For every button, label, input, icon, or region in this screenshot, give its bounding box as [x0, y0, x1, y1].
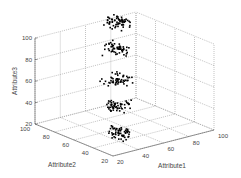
z-tick-label: 100	[22, 35, 33, 41]
data-point	[105, 44, 107, 46]
data-point	[120, 105, 122, 107]
data-point	[112, 40, 114, 42]
data-point	[115, 107, 117, 109]
y-axis-line	[35, 124, 113, 156]
data-point	[109, 21, 111, 23]
data-point	[124, 107, 126, 109]
data-point	[129, 131, 131, 133]
data-point	[114, 43, 116, 45]
y-tick-label: 80	[43, 134, 50, 140]
data-point	[109, 27, 111, 29]
side-wall-grid-line	[136, 34, 214, 66]
data-point	[121, 107, 123, 109]
data-point	[113, 51, 115, 53]
data-point	[118, 46, 120, 48]
data-point	[110, 107, 112, 109]
data-point	[110, 80, 112, 82]
data-point	[113, 105, 115, 107]
data-point	[117, 73, 119, 75]
data-point	[128, 133, 130, 135]
data-point	[108, 102, 110, 104]
data-point	[121, 79, 123, 81]
3d-scatter-plot: 204060801002040608010020406080100 Attrib…	[0, 0, 241, 178]
data-point	[129, 22, 131, 24]
data-point	[112, 19, 114, 21]
data-point	[118, 134, 120, 136]
data-point	[123, 48, 125, 50]
data-point	[111, 137, 113, 139]
data-point	[124, 104, 126, 106]
floor-grid-line	[55, 106, 156, 132]
x-tick-label: 60	[168, 146, 175, 152]
data-point	[119, 21, 121, 23]
data-point	[113, 14, 115, 16]
data-point	[116, 24, 118, 26]
data-point	[116, 110, 118, 112]
data-point	[112, 80, 114, 82]
data-point	[113, 45, 115, 47]
data-point	[105, 81, 107, 83]
axis-lines	[35, 38, 214, 156]
data-point	[120, 80, 122, 82]
data-point	[127, 20, 129, 22]
y-tick-label: 60	[62, 142, 69, 148]
data-point	[125, 139, 127, 141]
data-point	[123, 46, 125, 48]
data-point	[101, 78, 103, 80]
data-point	[125, 20, 127, 22]
data-point	[130, 99, 132, 101]
data-point	[121, 135, 123, 137]
x-tick-label: 20	[117, 159, 124, 165]
data-point	[126, 132, 128, 134]
data-point	[121, 24, 123, 26]
data-point	[126, 50, 128, 52]
data-point	[103, 83, 105, 85]
data-point	[125, 132, 127, 134]
data-point	[118, 48, 120, 50]
data-point	[121, 30, 123, 32]
data-point	[122, 81, 124, 83]
data-point	[131, 77, 133, 79]
x-tick-label: 100	[218, 133, 229, 139]
data-point	[118, 19, 120, 21]
data-point	[112, 128, 114, 130]
data-point	[121, 17, 123, 19]
data-point	[109, 18, 111, 20]
data-point	[112, 133, 114, 135]
data-point	[120, 130, 122, 132]
data-point	[116, 18, 118, 20]
floor-grid-line	[94, 122, 195, 148]
data-point	[108, 108, 110, 110]
data-point	[108, 43, 110, 45]
data-point	[122, 49, 124, 51]
data-point	[112, 78, 114, 80]
data-point	[122, 21, 124, 23]
data-point	[106, 104, 108, 106]
data-point	[119, 128, 121, 130]
data-point	[125, 55, 127, 57]
data-point	[112, 21, 114, 23]
data-point	[112, 107, 114, 109]
data-point	[122, 26, 124, 28]
data-point	[126, 76, 128, 78]
data-point	[121, 128, 123, 130]
data-point	[117, 132, 119, 134]
data-point	[119, 110, 121, 112]
data-point	[117, 105, 119, 107]
z-axis-label: Attribute3	[11, 67, 18, 95]
data-point	[115, 133, 117, 135]
data-point	[120, 138, 122, 140]
data-point	[108, 85, 110, 87]
data-point	[128, 104, 130, 106]
data-point	[120, 103, 122, 105]
data-point	[111, 28, 113, 30]
y-axis-label: Attribute2	[48, 161, 76, 168]
data-point	[107, 107, 109, 109]
data-point	[129, 26, 131, 28]
data-point	[109, 23, 111, 25]
data-point	[117, 47, 119, 49]
data-point	[108, 50, 110, 52]
data-point	[107, 16, 109, 18]
data-point	[111, 51, 113, 53]
data-point	[109, 82, 111, 84]
